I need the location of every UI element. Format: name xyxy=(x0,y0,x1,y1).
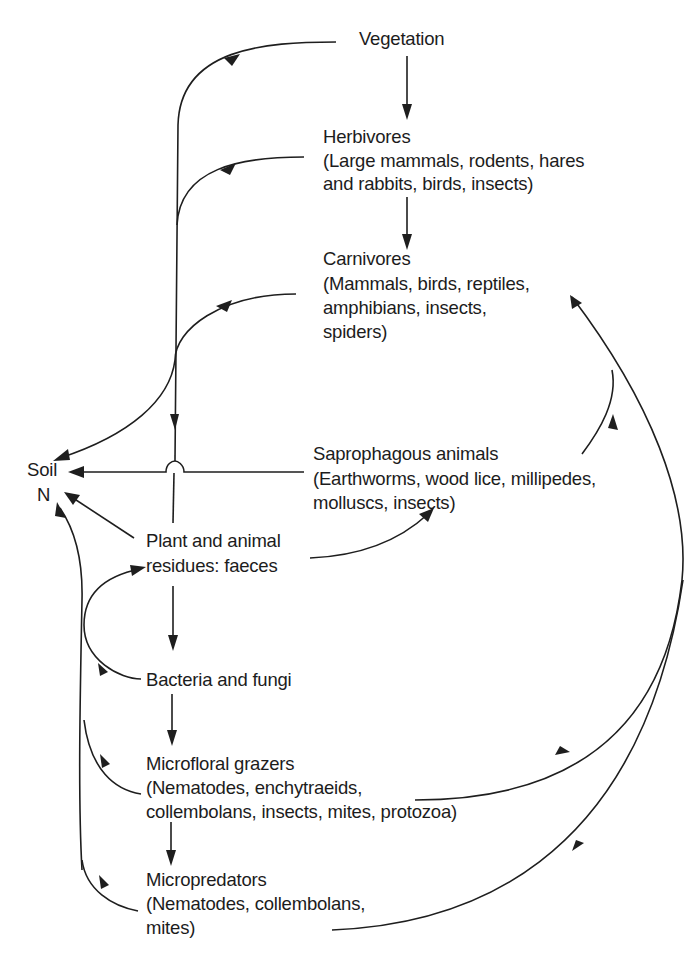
node-label: Vegetation xyxy=(359,28,444,49)
arrowhead-left-icon xyxy=(100,754,110,768)
edge-micropredators-soil xyxy=(82,860,138,911)
edge-herbivores-carnivores xyxy=(402,197,412,250)
node-title: Soil xyxy=(27,459,57,480)
arrowhead-up-icon xyxy=(55,502,66,518)
node-detail: mites) xyxy=(146,917,195,938)
node-title: Herbivores xyxy=(323,126,410,147)
node-title: Carnivores xyxy=(323,248,410,269)
edge-micro-soil-arc xyxy=(55,502,82,870)
node-saprophagous-animals: Saprophagous animals (Earthworms, wood l… xyxy=(313,443,596,513)
edge-saprophagous-carnivores xyxy=(582,370,618,454)
node-carnivores: Carnivores (Mammals, birds, reptiles, am… xyxy=(323,248,530,342)
arrowhead-left-icon xyxy=(68,466,84,478)
node-detail: spiders) xyxy=(323,321,387,342)
node-title: Microfloral grazers xyxy=(146,753,294,774)
edge-bacteria-residues xyxy=(84,565,146,679)
node-detail: collembolans, insects, mites, protozoa) xyxy=(146,801,457,822)
arrowhead-down-icon xyxy=(166,850,176,866)
node-microfloral-grazers: Microfloral grazers (Nematodes, enchytra… xyxy=(146,753,457,822)
arrowhead-right-icon xyxy=(130,565,146,576)
arrowhead-left-icon xyxy=(98,663,108,676)
arrowhead-down-icon xyxy=(167,730,177,746)
node-detail: residues: faeces xyxy=(146,555,278,576)
arrowhead-left-icon xyxy=(64,492,80,505)
node-detail: (Mammals, birds, reptiles, xyxy=(323,273,530,294)
arrowhead-down-icon xyxy=(168,635,178,651)
edge-grazers-carnivores xyxy=(415,295,683,800)
node-detail: (Nematodes, collembolans, xyxy=(146,893,365,914)
edge-residues-saprophagous xyxy=(310,508,434,558)
edge-bacteria-grazers xyxy=(167,694,177,746)
node-herbivores: Herbivores (Large mammals, rodents, hare… xyxy=(323,126,584,194)
node-detail: (Earthworms, wood lice, millipedes, xyxy=(313,468,596,489)
arrowhead-left-icon xyxy=(99,875,109,889)
node-detail: amphibians, insects, xyxy=(323,297,487,318)
node-detail: molluscs, insects) xyxy=(313,492,455,513)
node-title: Micropredators xyxy=(146,869,267,890)
arrowhead-down-icon xyxy=(402,104,412,120)
node-detail: (Large mammals, rodents, hares xyxy=(323,150,584,171)
node-label: Bacteria and fungi xyxy=(146,669,292,690)
edge-vegetation-herbivores xyxy=(402,56,412,120)
node-vegetation: Vegetation xyxy=(359,28,444,49)
arrowhead-left-icon xyxy=(220,163,236,175)
edge-herbivores-trunk xyxy=(177,157,304,225)
node-bacteria-fungi: Bacteria and fungi xyxy=(146,669,292,690)
edge-micropredators-carnivores xyxy=(332,580,683,930)
nitrogen-flow-diagram: Vegetation Herbivores (Large mammals, ro… xyxy=(0,0,694,953)
node-detail: N xyxy=(37,484,50,505)
node-title: Plant and animal xyxy=(146,530,281,551)
node-title: Saprophagous animals xyxy=(313,443,498,464)
edge-grazers-micropredators xyxy=(166,822,176,866)
arrowhead-right-icon xyxy=(572,840,584,851)
edge-saprophagous-soil xyxy=(68,461,304,478)
node-micropredators: Micropredators (Nematodes, collembolans,… xyxy=(146,869,365,938)
edge-vegetation-trunk xyxy=(170,42,336,523)
edge-residues-bacteria xyxy=(168,586,178,651)
node-detail: and rabbits, birds, insects) xyxy=(323,173,533,194)
node-plant-animal-residues: Plant and animal residues: faeces xyxy=(146,530,281,576)
arrowhead-left-icon xyxy=(53,449,70,461)
edge-grazers-soil xyxy=(84,720,141,794)
node-soil-n: Soil N xyxy=(27,459,57,505)
arrowhead-right-icon xyxy=(555,746,570,755)
arrowhead-up-icon xyxy=(608,414,618,430)
node-detail: (Nematodes, enchytraeids, xyxy=(146,777,362,798)
edge-residues-soil xyxy=(64,492,134,538)
arrowhead-down-icon xyxy=(170,414,179,430)
